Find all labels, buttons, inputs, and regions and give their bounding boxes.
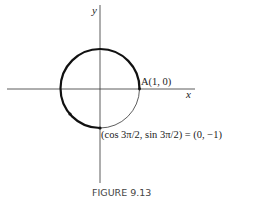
unit-circle-diagram: y x A(1, 0) (cos 3π/2, sin 3π/2) = (0, −… <box>0 0 257 198</box>
figure-caption: FIGURE 9.13 <box>92 187 151 198</box>
point-a-label: A(1, 0) <box>141 76 172 88</box>
arrow-mark <box>68 112 71 115</box>
thin-arc <box>100 89 140 128</box>
point-bottom-label: (cos 3π/2, sin 3π/2) = (0, −1) <box>101 129 223 141</box>
y-axis-label: y <box>91 4 97 16</box>
point-a <box>138 88 141 91</box>
x-axis-label: x <box>185 88 191 100</box>
